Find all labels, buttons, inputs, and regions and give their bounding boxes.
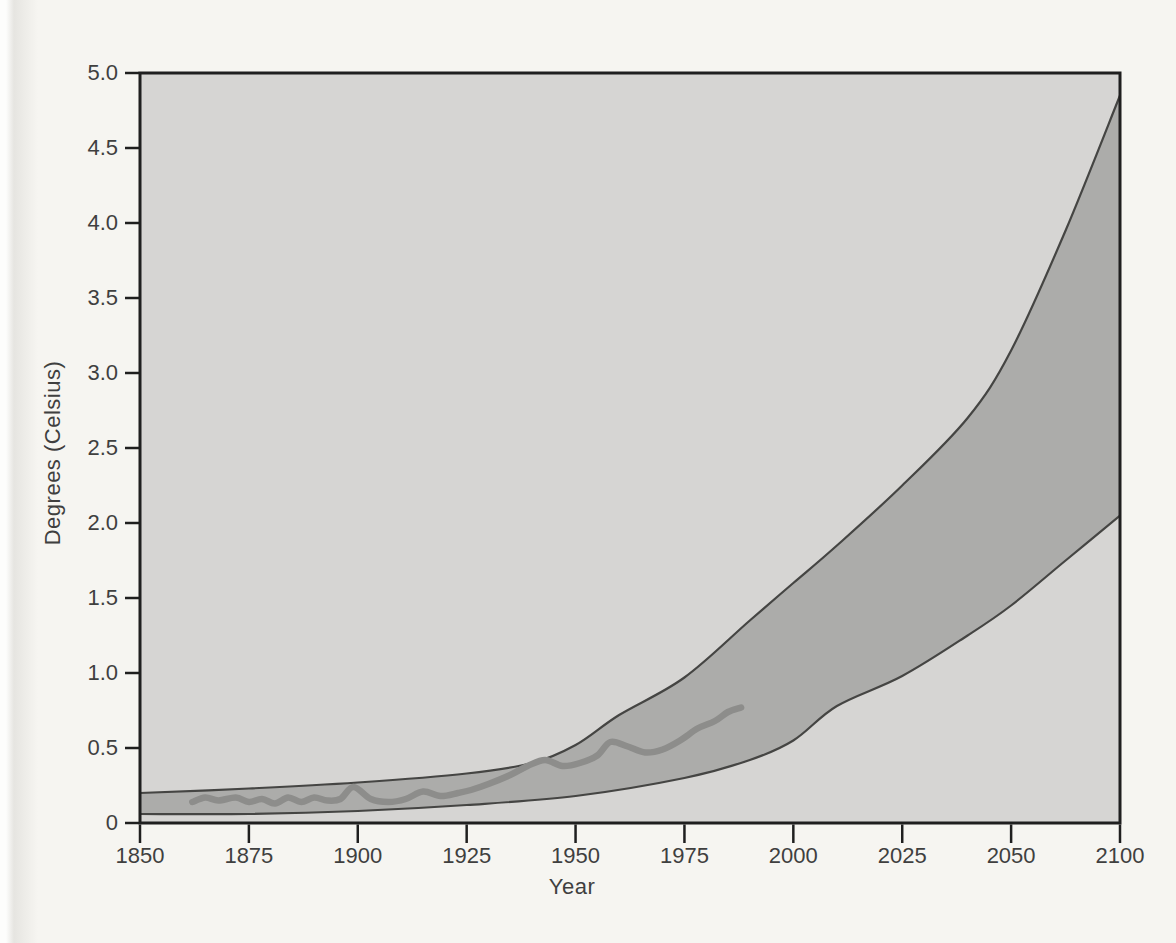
y-tick-label: 0 <box>38 810 118 836</box>
y-tick-label: 2.0 <box>38 510 118 536</box>
x-tick-label: 1850 <box>88 843 192 869</box>
chart-canvas <box>0 0 1176 943</box>
temperature-projection-chart: Degrees (Celsius) Year 5.04.54.03.53.02.… <box>0 0 1176 943</box>
y-tick-label: 3.0 <box>38 360 118 386</box>
x-tick-label: 1950 <box>524 843 628 869</box>
y-tick-label: 5.0 <box>38 60 118 86</box>
y-tick-label: 3.5 <box>38 285 118 311</box>
x-axis-title: Year <box>472 874 672 900</box>
y-tick-label: 2.5 <box>38 435 118 461</box>
scanned-book-page: Degrees (Celsius) Year 5.04.54.03.53.02.… <box>0 0 1176 943</box>
y-tick-label: 1.0 <box>38 660 118 686</box>
y-tick-label: 4.0 <box>38 210 118 236</box>
x-tick-label: 1975 <box>632 843 736 869</box>
x-tick-label: 1900 <box>306 843 410 869</box>
x-tick-label: 2025 <box>850 843 954 869</box>
x-tick-label: 2100 <box>1068 843 1172 869</box>
x-tick-label: 2000 <box>741 843 845 869</box>
y-tick-label: 0.5 <box>38 735 118 761</box>
x-tick-label: 1925 <box>415 843 519 869</box>
y-tick-label: 1.5 <box>38 585 118 611</box>
x-tick-label: 2050 <box>959 843 1063 869</box>
x-tick-label: 1875 <box>197 843 301 869</box>
y-tick-label: 4.5 <box>38 135 118 161</box>
